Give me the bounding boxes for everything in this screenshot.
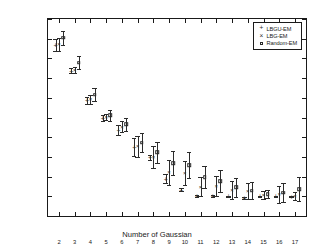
figure-canvas: ++++++++++++++++×××××××××××××××× + LBGU-…	[0, 0, 314, 249]
x-tick-label: 10	[182, 239, 188, 245]
y-tick-mark	[302, 98, 306, 99]
error-bar-cap	[132, 138, 136, 139]
error-bar-cap	[167, 185, 171, 186]
error-bar-cap	[61, 31, 65, 32]
data-point-marker: ×	[104, 114, 108, 120]
x-tick-mark	[201, 212, 202, 216]
y-tick-mark	[48, 39, 52, 40]
y-tick-mark	[48, 78, 52, 79]
data-point-marker	[140, 141, 144, 145]
x-tick-label: 14	[245, 239, 251, 245]
data-point-marker: ×	[246, 188, 250, 194]
error-bar-cap	[187, 152, 191, 153]
x-tick-mark	[216, 212, 217, 216]
x-tick-mark	[75, 212, 76, 216]
x-tick-mark	[295, 212, 296, 216]
plot-area: ++++++++++++++++×××××××××××××××× + LBGU-…	[47, 18, 307, 217]
error-bar-cap	[297, 177, 301, 178]
data-point-marker: ×	[120, 124, 124, 130]
error-bar-cap	[234, 178, 238, 179]
x-tick-label: 13	[229, 239, 235, 245]
data-point-marker	[219, 179, 223, 183]
x-tick-label: 2	[57, 239, 60, 245]
legend-label-lbgu-em: LBGU-EM	[267, 26, 292, 32]
x-tick-label: 8	[152, 239, 155, 245]
error-bar-cap	[234, 197, 238, 198]
error-bar-cap	[88, 104, 92, 105]
x-tick-mark	[106, 212, 107, 216]
y-tick-mark	[48, 58, 52, 59]
x-tick-mark	[169, 212, 170, 216]
chart-legend: + LBGU-EM × LBG-EM Random-EM	[253, 22, 303, 50]
y-tick-mark	[48, 19, 52, 20]
error-bar-cap	[108, 110, 112, 111]
legend-label-lbg-em: LBG-EM	[267, 33, 288, 39]
error-bar-cap	[155, 163, 159, 164]
error-bar-cap	[218, 170, 222, 171]
error-bar-cap	[171, 175, 175, 176]
y-tick-mark	[48, 157, 52, 158]
x-tick-mark	[185, 212, 186, 216]
x-tick-label: 4	[89, 239, 92, 245]
error-bar-cap	[187, 178, 191, 179]
x-tick-mark	[122, 19, 123, 23]
data-point-marker: ×	[262, 192, 266, 198]
x-tick-mark	[264, 212, 265, 216]
error-bar-cap	[140, 152, 144, 153]
x-tick-mark	[232, 212, 233, 216]
error-bar-cap	[297, 201, 301, 202]
error-bar-cap	[140, 133, 144, 134]
x-tick-label: 9	[168, 239, 171, 245]
x-tick-mark	[248, 212, 249, 216]
data-point-marker	[234, 186, 238, 190]
error-bar-cap	[57, 51, 61, 52]
x-tick-mark	[153, 19, 154, 23]
error-bar-cap	[61, 45, 65, 46]
error-bar-cap	[135, 136, 139, 137]
cross-marker-icon: ×	[257, 33, 267, 40]
error-bar-cap	[265, 190, 269, 191]
error-bar-cap	[108, 121, 112, 122]
x-tick-mark	[279, 212, 280, 216]
x-tick-label: 17	[292, 239, 298, 245]
data-point-marker	[93, 93, 97, 97]
data-point-marker: ×	[183, 170, 187, 176]
error-bar-cap	[202, 188, 206, 189]
y-tick-mark	[302, 19, 306, 20]
x-tick-mark	[138, 212, 139, 216]
error-bar-cap	[198, 196, 202, 197]
data-point-marker: +	[164, 175, 168, 182]
error-bar-cap	[92, 88, 96, 89]
data-point-marker: ×	[215, 183, 219, 189]
error-bar-cap	[250, 199, 254, 200]
x-tick-label: 6	[120, 239, 123, 245]
y-tick-mark	[48, 118, 52, 119]
error-bar-cap	[116, 135, 120, 136]
y-tick-mark	[48, 137, 52, 138]
error-bar-cap	[281, 183, 285, 184]
y-tick-mark	[302, 78, 306, 79]
x-tick-mark	[138, 19, 139, 23]
data-point-marker	[171, 161, 175, 165]
error-bar-cap	[171, 151, 175, 152]
data-point-marker	[250, 189, 254, 193]
error-bar-cap	[250, 182, 254, 183]
x-tick-mark	[75, 19, 76, 23]
x-tick-mark	[59, 19, 60, 23]
y-tick-mark	[302, 58, 306, 59]
x-tick-mark	[90, 212, 91, 216]
data-point-marker	[77, 61, 81, 65]
x-tick-label: 15	[260, 239, 266, 245]
error-bar-cap	[92, 101, 96, 102]
x-axis-title: Number of Gaussian	[0, 230, 314, 239]
y-tick-mark	[302, 216, 306, 217]
y-tick-mark	[48, 196, 52, 197]
data-point-marker: ×	[136, 143, 140, 149]
data-point-marker	[124, 122, 128, 126]
y-tick-mark	[302, 39, 306, 40]
x-tick-label: 7	[136, 239, 139, 245]
y-tick-mark	[302, 196, 306, 197]
x-tick-mark	[248, 19, 249, 23]
error-bar-cap	[151, 146, 155, 147]
x-tick-label: 12	[213, 239, 219, 245]
